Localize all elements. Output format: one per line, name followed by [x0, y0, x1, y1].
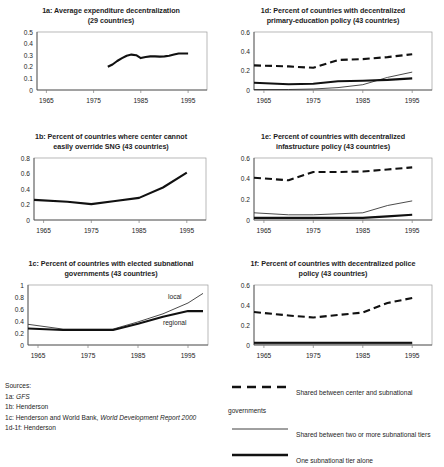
panel-1a: 1a: Average expenditure decentralization… — [0, 6, 222, 111]
panel-1b: 1b: Percent of countries where center ca… — [0, 132, 222, 240]
svg-text:0.2: 0.2 — [24, 63, 33, 70]
chart-1e-series — [254, 167, 412, 218]
panel-1d-title-line1: 1d: Percent of countries with decentrali… — [222, 6, 444, 16]
panel-1a-title: 1a: Average expenditure decentralization… — [0, 6, 222, 26]
svg-text:1965: 1965 — [39, 97, 54, 104]
svg-text:1965: 1965 — [257, 227, 272, 234]
svg-text:1975: 1975 — [306, 97, 321, 104]
chart-1c-xticks: 1965 1975 1985 1995 — [31, 345, 196, 359]
chart-1f-series — [254, 298, 412, 344]
svg-text:0: 0 — [246, 87, 250, 94]
svg-text:1985: 1985 — [132, 227, 147, 234]
svg-text:1975: 1975 — [81, 352, 96, 359]
svg-text:0.2: 0.2 — [241, 67, 250, 74]
source-line-1a: 1a: GFS — [5, 392, 220, 403]
legend-entry-shared-center: Shared between center and subnational go… — [228, 381, 442, 417]
chart-1b-yticks: 0.8 0.6 0.4 0.2 0 — [21, 155, 31, 224]
svg-text:0.8: 0.8 — [15, 294, 24, 301]
svg-text:1975: 1975 — [306, 352, 321, 359]
svg-text:1965: 1965 — [257, 352, 272, 359]
svg-text:1965: 1965 — [31, 352, 46, 359]
legend-entry-shared-tiers: Shared between two or more subnational t… — [228, 423, 442, 441]
svg-text:0.4: 0.4 — [241, 302, 250, 309]
svg-text:0: 0 — [29, 87, 33, 94]
source-line-1b: 1b: Henderson — [5, 402, 220, 413]
series-one-tier-alone — [254, 78, 412, 84]
chart-1e-axes — [254, 158, 432, 220]
svg-text:0.2: 0.2 — [241, 322, 250, 329]
panel-1f-plot: 0.6 0.4 0.2 0 1965 1975 1985 1995 — [222, 279, 444, 367]
svg-text:0.6: 0.6 — [241, 282, 250, 289]
chart-1d-yticks: 0.6 0.4 0.2 0 — [241, 29, 251, 94]
chart-1e-svg: 0.6 0.4 0.2 0 1965 1975 1985 1995 — [222, 152, 444, 240]
svg-text:0.1: 0.1 — [24, 75, 33, 82]
chart-1e-yticks: 0.6 0.4 0.2 0 — [241, 155, 251, 224]
svg-text:1975: 1975 — [84, 227, 99, 234]
panel-1d-plot: 0.6 0.4 0.2 0 1965 1975 1985 1995 — [222, 26, 444, 111]
chart-1d-xticks: 1965 1975 1985 1995 — [257, 90, 420, 104]
source-line-1c: 1c: Henderson and World Bank, World Deve… — [5, 413, 220, 424]
panel-1b-plot: 0.8 0.6 0.4 0.2 0 1965 1975 1985 1995 — [0, 152, 222, 240]
svg-text:0: 0 — [246, 342, 250, 349]
chart-1f-xticks: 1965 1975 1985 1995 — [257, 345, 420, 359]
chart-1c-annotations: local regional — [163, 293, 187, 327]
source-1b-prefix: 1b: Henderson — [5, 403, 48, 410]
source-1a-prefix: 1a: — [5, 393, 16, 400]
chart-1a-series — [108, 54, 188, 67]
panel-1e: 1e: Percent of countries with decentrali… — [222, 132, 444, 240]
chart-1a-xticks: 1965 1975 1985 1995 — [39, 90, 196, 104]
source-1c-italic: World Development Report 2000 — [100, 414, 196, 421]
svg-text:0.8: 0.8 — [21, 155, 30, 162]
svg-text:1985: 1985 — [355, 352, 370, 359]
panel-1c: 1c: Percent of countries with elected su… — [0, 259, 222, 367]
legend-label-shared-tiers: Shared between two or more subnational t… — [296, 431, 431, 438]
legend-entry-one-tier: One subnational tier alone — [228, 449, 442, 467]
svg-text:1995: 1995 — [181, 97, 196, 104]
svg-text:0.6: 0.6 — [241, 155, 250, 162]
svg-text:1965: 1965 — [257, 97, 272, 104]
svg-text:0: 0 — [26, 217, 30, 224]
chart-1b-xticks: 1965 1975 1985 1995 — [36, 220, 194, 234]
annotation-regional: regional — [163, 319, 187, 327]
chart-1d-series — [254, 54, 412, 89]
svg-text:0.2: 0.2 — [21, 201, 30, 208]
panel-1e-title-line2: infastructure policy (43 countries) — [222, 142, 444, 152]
svg-text:1985: 1985 — [133, 97, 148, 104]
svg-text:0.6: 0.6 — [21, 170, 30, 177]
annotation-local: local — [168, 293, 182, 300]
svg-text:1975: 1975 — [86, 97, 101, 104]
chart-1b-series — [34, 173, 187, 204]
legend-key-thin-solid-icon — [228, 423, 292, 435]
panel-1f: 1f: Percent of countries with decentrali… — [222, 259, 444, 367]
svg-text:1: 1 — [20, 282, 24, 289]
svg-text:1995: 1995 — [405, 352, 420, 359]
panel-1a-title-line1: 1a: Average expenditure decentralization — [0, 6, 222, 16]
svg-text:0.2: 0.2 — [241, 196, 250, 203]
panel-1e-plot: 0.6 0.4 0.2 0 1965 1975 1985 1995 — [222, 152, 444, 240]
svg-text:1995: 1995 — [179, 227, 194, 234]
panel-1b-title-line2: easily override SNG (43 countries) — [0, 142, 222, 152]
series-expenditure-decentralization — [108, 54, 188, 67]
svg-text:1985: 1985 — [355, 97, 370, 104]
legend-key-thick-solid-icon — [228, 449, 292, 461]
svg-text:1995: 1995 — [405, 227, 420, 234]
chart-1c-svg: 1 0.8 0.6 0.4 0.2 0 1965 1975 1985 1995 — [0, 279, 222, 367]
source-1a-italic: GFS — [16, 393, 30, 400]
svg-text:0: 0 — [246, 217, 250, 224]
series-shared-two-or-more-tiers — [254, 201, 412, 215]
svg-text:1995: 1995 — [405, 97, 420, 104]
panel-1f-title-line1: 1f: Percent of countries with decentrali… — [222, 259, 444, 269]
source-line-1d-1f: 1d-1f: Henderson — [5, 423, 220, 434]
chart-1f-svg: 0.6 0.4 0.2 0 1965 1975 1985 1995 — [222, 279, 444, 367]
panel-1b-title: 1b: Percent of countries where center ca… — [0, 132, 222, 152]
source-1c-prefix: 1c: Henderson and World Bank, — [5, 414, 100, 421]
svg-text:1995: 1995 — [181, 352, 196, 359]
svg-text:0.5: 0.5 — [24, 29, 33, 36]
panel-1a-plot: 0.5 0.4 0.3 0.2 0.1 0 1965 1975 1985 199… — [0, 26, 222, 111]
panel-1a-title-line2: (29 countries) — [0, 16, 222, 26]
svg-text:0.6: 0.6 — [15, 306, 24, 313]
panel-1d-title: 1d: Percent of countries with decentrali… — [222, 6, 444, 26]
panel-1b-title-line1: 1b: Percent of countries where center ca… — [0, 132, 222, 142]
series-one-tier-alone — [254, 215, 412, 218]
